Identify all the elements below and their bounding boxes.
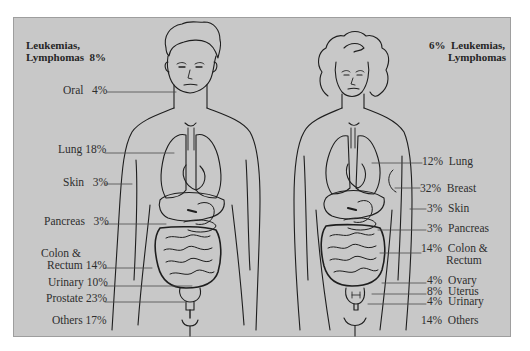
female-face xyxy=(335,62,369,97)
male-face xyxy=(167,56,216,93)
site-name: Pancreas xyxy=(44,215,85,227)
male-site-others: Others 17% xyxy=(52,314,107,326)
male-site-prostate: Prostate 23% xyxy=(46,292,107,304)
male-bladder xyxy=(180,288,201,302)
male-hair xyxy=(165,22,220,58)
site-percent: 10% xyxy=(87,276,108,288)
site-name: Urinary xyxy=(448,295,484,307)
male-figure xyxy=(112,22,260,336)
site-percent: 3% xyxy=(94,215,109,227)
female-leukemia-line1: Leukemias, xyxy=(451,39,505,51)
site-percent: 3% xyxy=(427,222,442,234)
female-site-breast: 32% Breast xyxy=(420,182,476,194)
site-name: Pancreas xyxy=(448,222,489,234)
site-name-line1: Colon & xyxy=(448,242,488,254)
female-lungs xyxy=(326,136,350,194)
male-site-skin: Skin 3% xyxy=(63,176,108,188)
female-site-colon-rectum: 14% Colon & Rectum xyxy=(421,242,488,266)
female-site-pancreas: 3% Pancreas xyxy=(427,222,489,234)
site-name: Breast xyxy=(447,182,476,194)
male-site-pancreas: Pancreas 3% xyxy=(44,215,109,227)
male-site-oral: Oral 4% xyxy=(63,84,107,96)
site-name: Others xyxy=(448,314,479,326)
site-percent: 18% xyxy=(85,143,106,155)
site-name: Lung xyxy=(58,143,82,155)
female-site-lung: 12% Lung xyxy=(422,155,473,167)
site-percent: 14% xyxy=(421,314,442,326)
site-name-line1: Colon & xyxy=(41,247,107,259)
female-site-others: 14% Others xyxy=(421,314,479,326)
site-name: Rectum xyxy=(421,254,488,266)
male-leukemia-line1: Leukemias, xyxy=(26,39,106,51)
female-hair xyxy=(319,32,389,97)
female-leukemia-percent: 6% xyxy=(429,39,446,51)
site-percent: 12% xyxy=(422,155,443,167)
male-site-lung: Lung 18% xyxy=(58,143,106,155)
site-name: Skin xyxy=(448,202,469,214)
male-leukemia-line2: Lymphomas xyxy=(26,51,84,63)
male-site-colon-rectum: Colon & Rectum 14% xyxy=(41,247,107,271)
site-percent: 4% xyxy=(427,295,442,307)
site-percent: 23% xyxy=(86,292,107,304)
female-site-urinary: 4% Urinary xyxy=(427,296,484,307)
male-leukemia-percent: 8% xyxy=(90,51,107,63)
site-percent: 3% xyxy=(93,176,108,188)
site-percent: 3% xyxy=(427,202,442,214)
female-leukemia-line2: Lymphomas xyxy=(429,51,506,63)
site-name: Urinary xyxy=(48,276,84,288)
female-torso-right xyxy=(364,108,412,330)
female-uterus xyxy=(346,288,365,304)
site-name: Oral xyxy=(63,84,83,96)
site-percent: 32% xyxy=(420,182,441,194)
site-name: Rectum xyxy=(47,259,83,271)
site-name: Lung xyxy=(449,155,473,167)
female-figure xyxy=(294,32,412,337)
male-lungs xyxy=(161,134,186,198)
female-site-skin: 3% Skin xyxy=(427,202,469,214)
female-site-ovary: 4% Ovary xyxy=(427,275,477,286)
male-liver xyxy=(159,193,224,222)
female-leukemia-label: 6% Leukemias, Lymphomas xyxy=(429,39,506,63)
male-torso-left xyxy=(112,108,174,330)
male-leader-lines xyxy=(105,92,192,302)
female-torso-left xyxy=(294,108,342,330)
site-percent: 4% xyxy=(92,84,107,96)
male-site-urinary: Urinary 10% xyxy=(48,276,108,288)
female-liver xyxy=(324,191,384,220)
site-percent: 14% xyxy=(421,242,442,254)
site-percent: 17% xyxy=(86,314,107,326)
male-leukemia-label: Leukemias, Lymphomas 8% xyxy=(26,39,106,63)
site-name: Others xyxy=(52,314,83,326)
site-name: Skin xyxy=(63,176,84,188)
site-percent: 14% xyxy=(86,259,107,271)
female-leader-lines xyxy=(368,163,426,304)
site-name: Prostate xyxy=(46,292,83,304)
